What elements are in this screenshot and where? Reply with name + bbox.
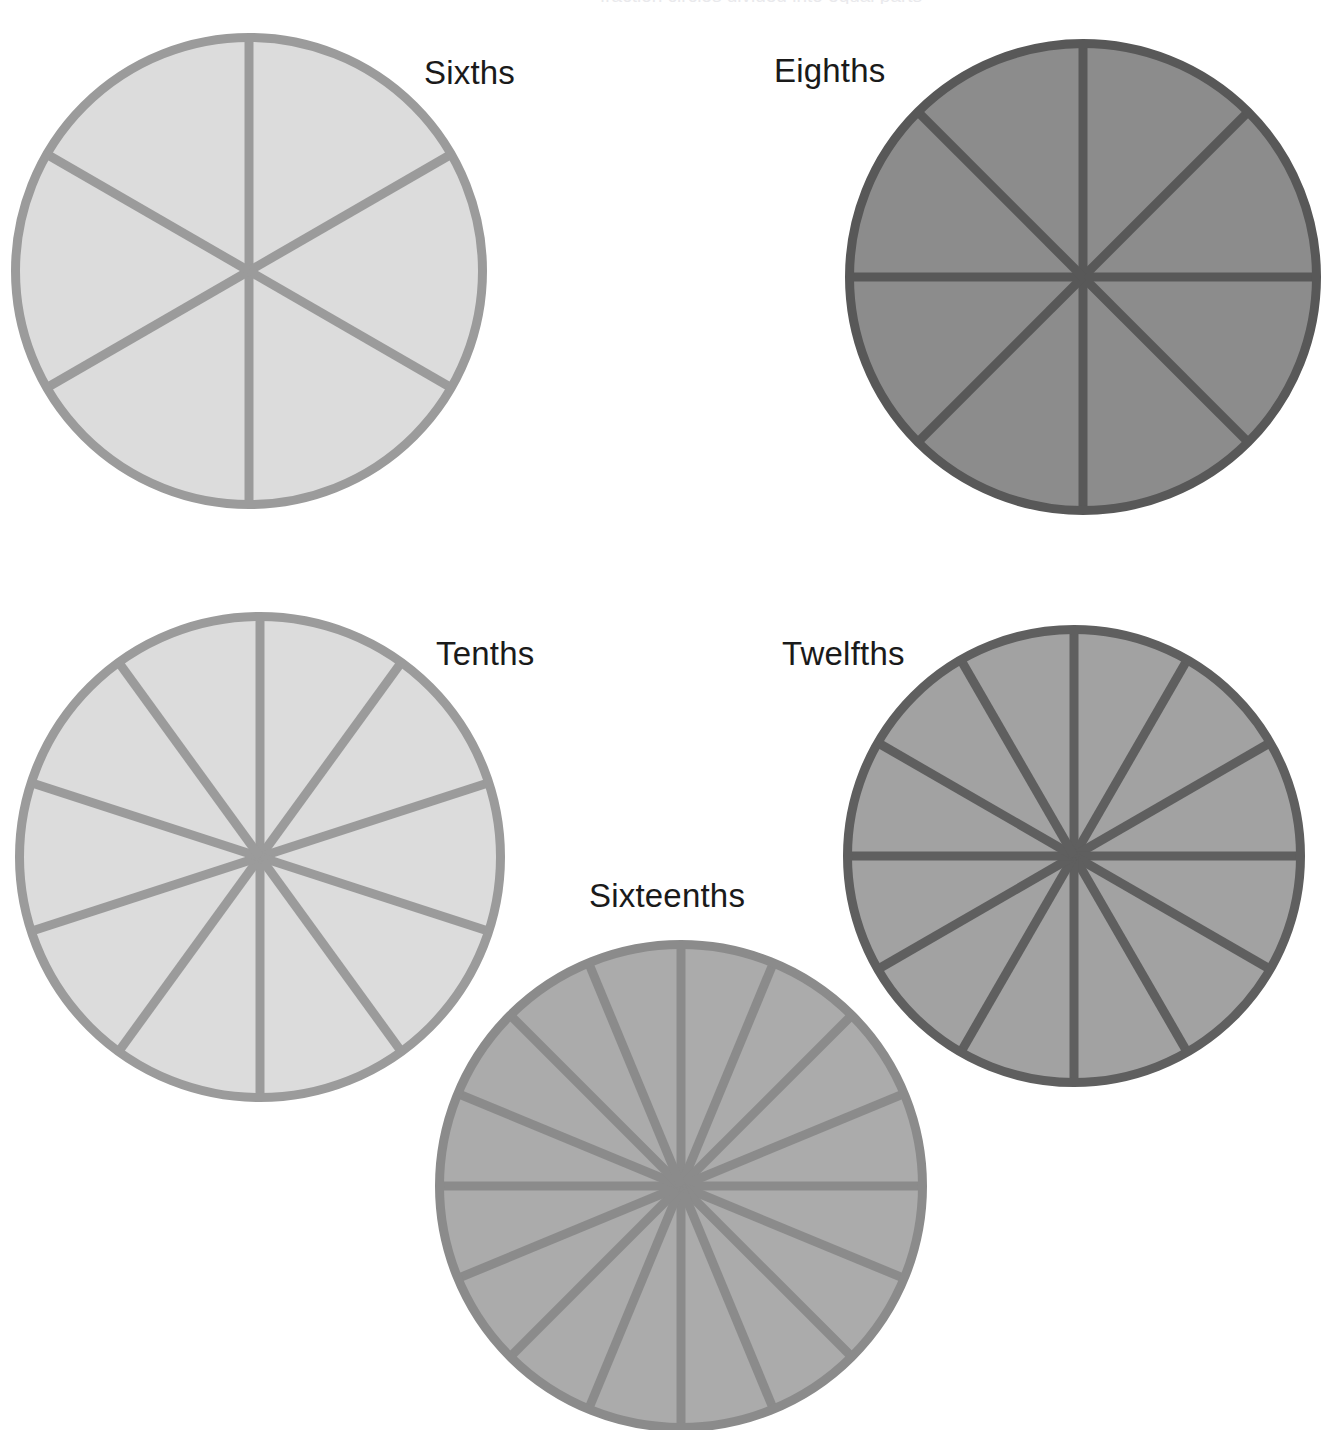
fraction-circle-eighths — [850, 44, 1317, 511]
label-sixths: Sixths — [424, 56, 515, 89]
fraction-circle-sixths — [16, 38, 483, 505]
fraction-circles-diagram: fraction circles divided into equal part… — [0, 0, 1321, 1430]
fraction-circle-twelfths — [848, 630, 1301, 1083]
label-eighths: Eighths — [774, 54, 885, 87]
fraction-circles-canvas — [0, 0, 1321, 1430]
label-sixteenths: Sixteenths — [589, 879, 745, 912]
fraction-circle-sixteenths — [440, 945, 923, 1428]
label-tenths: Tenths — [436, 637, 534, 670]
fraction-circle-tenths — [20, 617, 501, 1098]
label-twelfths: Twelfths — [782, 637, 905, 670]
